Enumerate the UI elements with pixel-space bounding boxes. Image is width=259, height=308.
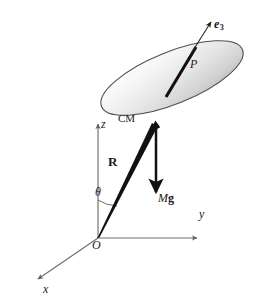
label-theta-angle: θ	[95, 186, 101, 198]
label-center-of-mass: CM	[118, 113, 135, 124]
r-vector	[97, 120, 160, 238]
disk-body	[92, 25, 252, 130]
diagram-canvas	[0, 0, 259, 308]
label-x-axis: x	[43, 283, 48, 295]
label-point-p: P	[190, 58, 197, 70]
label-e3: e3	[214, 18, 224, 32]
label-origin: O	[92, 239, 101, 251]
r-vector-shaft	[97, 123, 157, 239]
label-weight-force: Mg	[158, 192, 174, 204]
disk-ellipse	[92, 25, 252, 130]
physics-diagram-figure: e3 P CM z R θ Mg y O x	[0, 0, 259, 308]
label-z-axis: z	[101, 118, 106, 130]
x-axis-arrow	[38, 238, 98, 279]
label-y-axis: y	[199, 208, 204, 220]
label-position-vector: R	[108, 155, 117, 168]
